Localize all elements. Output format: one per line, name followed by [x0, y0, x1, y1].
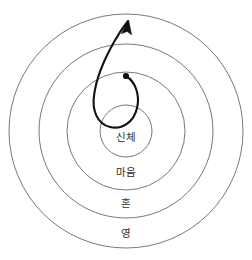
ring-label-soul: 혼 [121, 198, 131, 209]
ring-label-mind: 마음 [116, 167, 137, 178]
diagram-canvas: 신체 마음 혼 영 [0, 0, 252, 260]
ring-label-spirit: 영 [121, 228, 131, 239]
spiral-arrow-path [94, 21, 138, 128]
spiral-origin-dot [123, 73, 129, 79]
ring-label-body: 신체 [116, 132, 137, 143]
